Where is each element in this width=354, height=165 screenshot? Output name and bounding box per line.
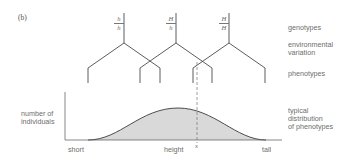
distribution-area (88, 108, 266, 140)
genotype-allele-bottom: h (117, 24, 120, 31)
distribution-chart (65, 62, 282, 143)
x-axis-label-short: short (68, 146, 84, 154)
genotype-allele-top: h (117, 15, 120, 22)
row-label-environmental-variation: environmental variation (288, 41, 333, 57)
y-axis-label: number of individuals (21, 110, 55, 126)
x-axis-label-height: height (164, 146, 184, 154)
genotype-allele-bottom: h (169, 24, 172, 31)
genotype-label-HH: H H (219, 15, 229, 31)
genotype-label-hh: h h (114, 15, 124, 31)
row-label-genotypes: genotypes (288, 24, 321, 32)
x-axis-label-tall: tall (262, 146, 271, 154)
genotype-label-Hh: H h (166, 15, 176, 31)
genotype-allele-top: H (169, 15, 174, 22)
row-label-phenotypes: phenotypes (288, 70, 325, 78)
genotype-allele-top: H (222, 15, 227, 22)
genotype-allele-bottom: H (222, 24, 227, 31)
tree-Hh (140, 13, 212, 83)
panel-label: (b) (18, 13, 27, 22)
marker-label-x: x (195, 142, 198, 150)
row-label-distribution: typical distribution of phenotypes (288, 107, 333, 132)
tree-HH (193, 13, 265, 83)
tree-hh (88, 13, 160, 83)
